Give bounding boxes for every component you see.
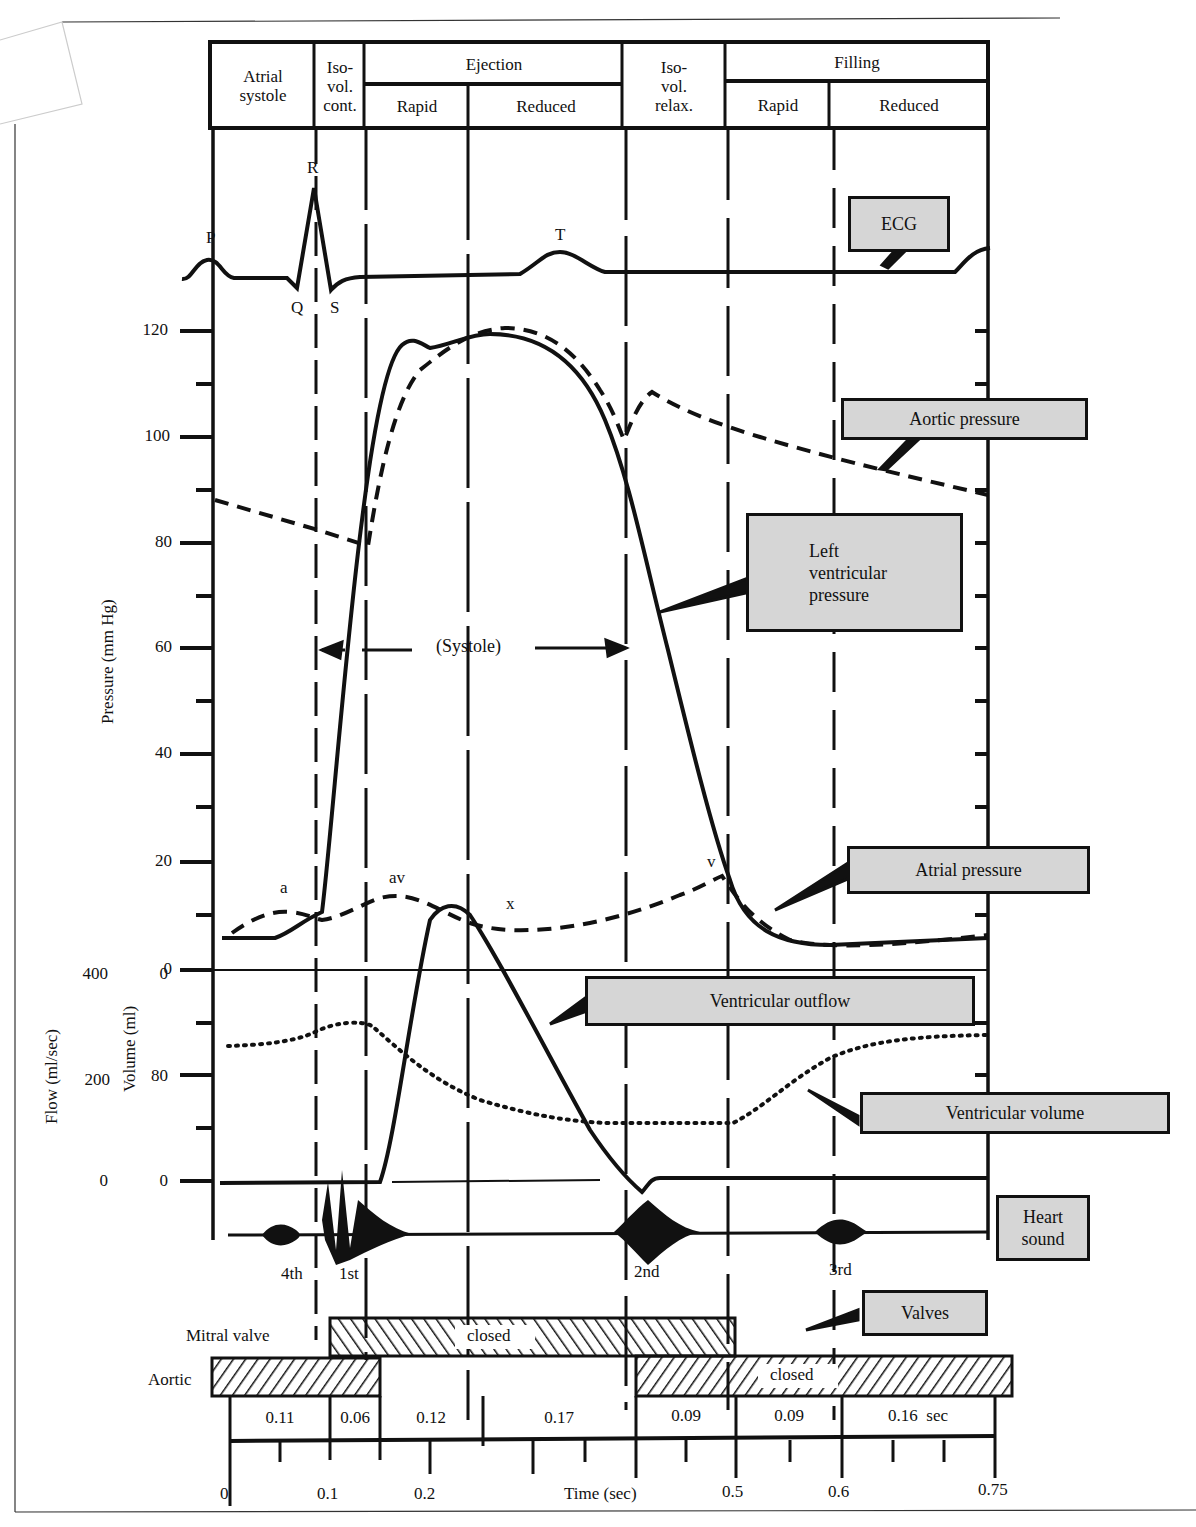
phase-label: Iso- vol. cont. [323,58,357,115]
duration-isovol-relax: 0.09 [637,1406,735,1426]
aortic-valve-label: Aortic [148,1370,191,1390]
flow-tick-0: 0 [64,1171,108,1191]
right-axis-ticks [975,331,988,1075]
systole-label: (Systole) [436,636,501,657]
duration-reduced-ejection: 0.17 [484,1408,634,1428]
phase-label: Reduced [879,96,938,115]
heart-sound-2nd: 2nd [634,1262,660,1282]
ecg-q-label: Q [291,298,303,318]
time-tick-0-2: 0.2 [414,1484,435,1504]
pressure-axis-label: Pressure (mm Hg) [98,599,118,724]
volume-tick-0-top: 0 [124,964,168,984]
ventricular-volume-callout: Ventricular volume [860,1092,1170,1134]
mitral-closed-label: closed [467,1326,510,1346]
cardiac-cycle-diagram [0,0,1196,1527]
heart-sound-trace [228,1170,988,1265]
ecg-callout: ECG [848,196,950,252]
pressure-tick-40: 40 [128,743,172,763]
time-tick-0-75: 0.75 [978,1480,1008,1500]
phase-label: Atrial systole [228,67,298,105]
page-border [0,18,1196,1512]
lv-pressure-callout: Left ventricular pressure [746,513,963,632]
ventricular-outflow-curve [220,906,988,1192]
time-tick-0-1: 0.1 [317,1484,338,1504]
phase-ejection: Ejection [366,45,622,83]
phase-label: Rapid [397,97,438,116]
heart-sound-3rd: 3rd [829,1260,852,1280]
pressure-tick-100: 100 [126,426,170,446]
valves-callout: Valves [862,1290,988,1336]
chart-frame [213,128,988,1240]
phase-isovol-contraction: Iso- vol. cont. [316,45,364,127]
duration-reduced-filling: 0.16 sec [843,1406,993,1426]
pressure-tick-60: 60 [128,637,172,657]
flow-tick-400: 400 [64,964,108,984]
duration-isovol-cont: 0.06 [331,1408,379,1428]
phase-label: Ejection [466,55,523,74]
duration-rapid-ejection: 0.12 [381,1408,481,1428]
time-axis-label: Time (sec) [564,1484,637,1504]
time-tick-0-5: 0.5 [722,1482,743,1502]
pressure-tick-80: 80 [128,532,172,552]
aortic-closed-label: closed [770,1365,813,1385]
heart-sound-4th: 4th [281,1264,303,1284]
duration-atrial-systole: 0.11 [232,1408,328,1428]
phase-label: Rapid [758,96,799,115]
atrial-wave-a: a [280,878,288,898]
mitral-valve-label: Mitral valve [186,1326,270,1346]
flow-zero-line [392,1180,600,1182]
pressure-tick-20: 20 [128,851,172,871]
duration-rapid-filling: 0.09 [737,1406,841,1426]
atrial-wave-av: av [389,868,405,888]
volume-tick-0-bottom: 0 [124,1171,168,1191]
phase-label: Filling [834,53,879,72]
mitral-valve-bar [330,1318,735,1356]
pressure-tick-120: 120 [124,320,168,340]
phase-label: Iso- vol. relax. [655,58,693,115]
volume-axis-label: Volume (ml) [120,1006,140,1092]
atrial-wave-v: v [707,852,716,872]
flow-axis-label: Flow (ml/sec) [42,1029,62,1124]
time-tick-0: 0 [220,1484,229,1504]
ecg-t-label: T [555,225,565,245]
pressure-axis-ticks [180,331,213,1181]
phase-filling-reduced: Reduced [831,83,987,127]
ventricular-outflow-callout: Ventricular outflow [585,976,975,1026]
phase-ejection-rapid: Rapid [366,86,468,127]
phase-filling: Filling [727,45,987,80]
ecg-s-label: S [330,298,339,318]
phase-isovol-relaxation: Iso- vol. relax. [624,45,724,127]
phase-label: Reduced [516,97,575,116]
ecg-p-label: P [206,228,215,248]
heart-sound-callout: Heart sound [996,1195,1090,1261]
phase-dividers [316,130,834,1420]
phase-ejection-reduced: Reduced [470,86,622,127]
atrial-pressure-callout: Atrial pressure [847,846,1090,894]
time-tick-0-6: 0.6 [828,1482,849,1502]
aortic-valve-bar [212,1356,1012,1396]
phase-filling-rapid: Rapid [727,83,829,127]
heart-sound-1st: 1st [339,1264,359,1284]
atrial-wave-x: x [506,894,515,914]
ecg-r-label: R [307,158,318,178]
aortic-pressure-callout: Aortic pressure [841,398,1088,440]
phase-atrial-systole: Atrial systole [213,45,313,127]
flow-tick-200: 200 [66,1070,110,1090]
